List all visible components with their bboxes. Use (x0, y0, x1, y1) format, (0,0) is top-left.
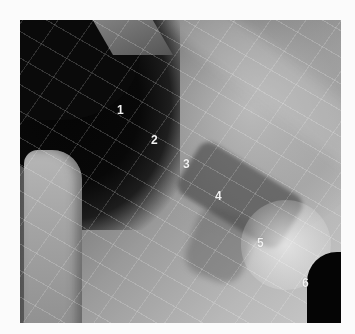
label-6: 6 (302, 277, 309, 289)
label-5: 5 (257, 237, 264, 249)
label-3: 3 (183, 158, 190, 170)
crossing-line-texture (20, 20, 341, 323)
label-2: 2 (151, 134, 158, 146)
radiograph-image (20, 20, 341, 323)
label-4: 4 (215, 190, 222, 202)
label-1: 1 (117, 104, 124, 116)
